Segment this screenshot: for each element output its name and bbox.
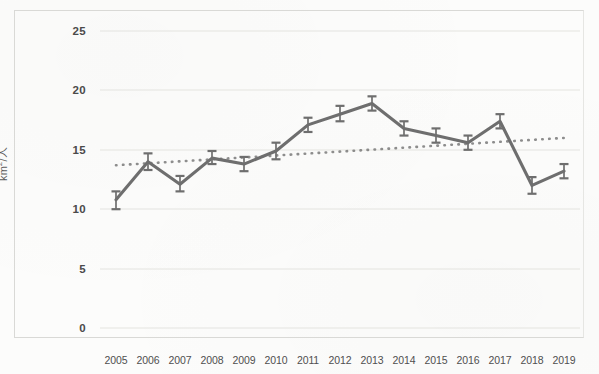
x-axis-tick-label: 2014 — [393, 354, 416, 366]
figure-page: km2/人 0510152025 20052006200720082009201… — [0, 0, 599, 374]
x-axis-tick-label: 2006 — [137, 354, 160, 366]
trendline — [116, 138, 564, 165]
x-axis-tick-label: 2018 — [521, 354, 544, 366]
y-axis-label-superscript: 2 — [0, 162, 4, 166]
x-axis-tick-label: 2013 — [361, 354, 384, 366]
series-canvas — [14, 10, 584, 338]
x-axis-tick-label: 2017 — [489, 354, 512, 366]
trendline-group — [116, 138, 564, 165]
x-axis-tick-label: 2012 — [329, 354, 352, 366]
chart-plot-area: km2/人 0510152025 20052006200720082009201… — [14, 10, 584, 338]
x-axis-tick-label: 2005 — [105, 354, 128, 366]
y-axis-label-tail: /人 — [0, 147, 9, 161]
x-axis-tick-label: 2011 — [297, 354, 319, 366]
x-axis-tick-label: 2019 — [553, 354, 576, 366]
x-axis-tick-label: 2008 — [201, 354, 224, 366]
y-axis-label-text: km — [0, 166, 9, 181]
x-axis-tick-label: 2007 — [169, 354, 192, 366]
x-axis-tick-label: 2009 — [233, 354, 256, 366]
y-axis-label: km2/人 — [0, 147, 10, 181]
x-axis-tick-label: 2015 — [425, 354, 448, 366]
x-axis-tick-label: 2016 — [457, 354, 480, 366]
x-axis-tick-label: 2010 — [265, 354, 288, 366]
